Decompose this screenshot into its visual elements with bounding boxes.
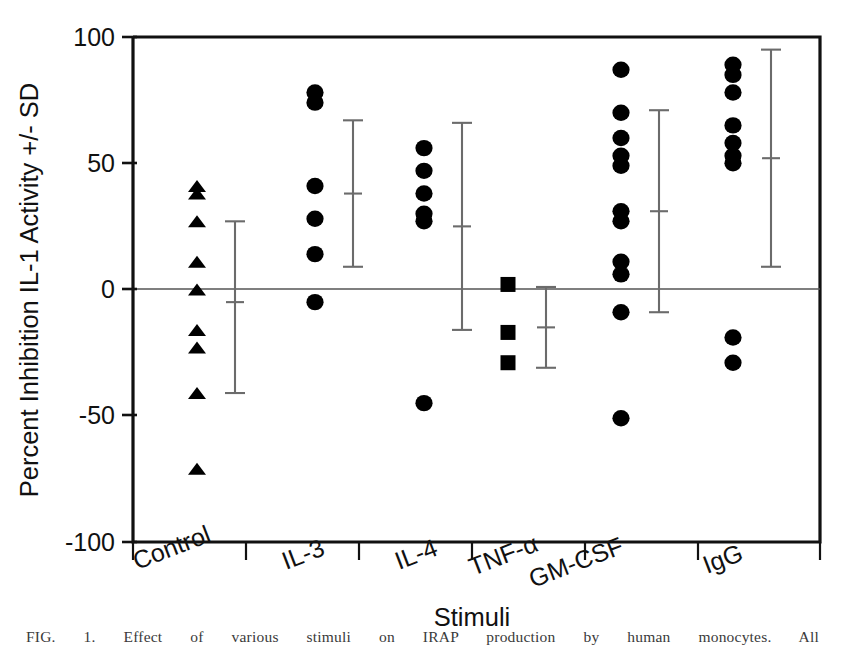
data-point	[612, 130, 629, 146]
data-point	[724, 117, 741, 133]
error-bar	[649, 110, 669, 312]
data-point	[188, 342, 206, 354]
y-axis-ticks	[122, 37, 137, 542]
x-axis-title: Stimuli	[434, 603, 511, 631]
data-point	[501, 277, 516, 292]
data-point	[306, 211, 323, 227]
y-tick-label-50: 50	[87, 149, 115, 177]
data-point	[415, 213, 432, 229]
x-tick-label-control: Control	[129, 520, 214, 575]
figure-caption: FIG. 1. Effect of various stimuli on IRA…	[0, 628, 845, 647]
x-axis-tick-labels: Control IL-3 IL-4 TNF-α GM-CSF IgG	[129, 520, 747, 593]
error-bar	[343, 120, 363, 266]
data-point	[306, 94, 323, 110]
y-tick-label-100: 100	[73, 23, 115, 51]
data-point	[612, 266, 629, 282]
data-point	[306, 178, 323, 194]
x-tick-label-igg: IgG	[699, 538, 747, 579]
x-tick-label-il4: IL-4	[391, 533, 441, 575]
error-bar	[761, 50, 781, 267]
data-point	[188, 256, 206, 268]
series-tnf-	[501, 277, 557, 370]
data-point	[188, 324, 206, 336]
data-point	[501, 325, 516, 340]
data-point	[415, 395, 432, 411]
error-bar	[452, 123, 472, 330]
data-point	[612, 410, 629, 426]
scatter-plot: 100 50 0 -50 -100 Percent Inhibition IL-…	[0, 0, 845, 647]
data-point	[415, 163, 432, 179]
y-tick-label-n100: -100	[65, 528, 115, 556]
data-point	[724, 329, 741, 345]
data-point	[188, 387, 206, 399]
data-point	[188, 463, 206, 475]
data-point	[188, 215, 206, 227]
data-point	[724, 67, 741, 83]
data-point	[612, 304, 629, 320]
data-point	[724, 155, 741, 171]
y-axis-tick-labels: 100 50 0 -50 -100	[65, 23, 115, 556]
y-axis-title: Percent Inhibition IL-1 Activity +/- SD	[15, 83, 43, 498]
y-tick-label-n50: -50	[79, 401, 115, 429]
data-point	[612, 105, 629, 121]
error-bar	[536, 287, 556, 368]
series-igg	[724, 50, 781, 371]
data-point	[415, 140, 432, 156]
data-point	[612, 158, 629, 174]
data-point	[612, 62, 629, 78]
error-bar	[225, 221, 245, 393]
data-point	[306, 246, 323, 262]
data-point	[612, 213, 629, 229]
y-tick-label-0: 0	[101, 275, 115, 303]
series-il-3	[306, 84, 363, 310]
figure-panel: 100 50 0 -50 -100 Percent Inhibition IL-…	[0, 0, 845, 647]
data-point	[724, 84, 741, 100]
data-layer	[188, 50, 781, 475]
data-point	[415, 185, 432, 201]
series-il-4	[415, 123, 472, 411]
data-point	[724, 355, 741, 371]
x-tick-label-il3: IL-3	[278, 533, 328, 575]
data-point	[306, 294, 323, 310]
series-gm-csf	[612, 62, 669, 427]
series-control	[188, 180, 245, 475]
caption-line-1: FIG. 1. Effect of various stimuli on IRA…	[26, 628, 819, 646]
data-point	[501, 355, 516, 370]
